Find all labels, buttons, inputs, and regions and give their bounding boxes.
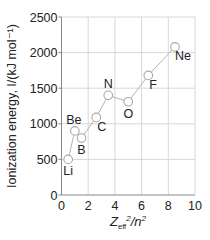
y-tick-label: 0 — [51, 189, 58, 203]
data-point-li — [64, 155, 73, 164]
point-label-c: C — [97, 120, 106, 134]
y-tick-label: 2500 — [30, 11, 58, 25]
x-axis-ticks: 0246810 — [58, 199, 202, 213]
x-tick-label: 10 — [188, 199, 202, 213]
x-axis-label: Zeff2/n2 — [109, 214, 146, 231]
data-point-o — [124, 97, 133, 106]
x-tick-label: 4 — [111, 199, 118, 213]
point-label-n: N — [104, 77, 113, 91]
y-tick-label: 1000 — [30, 117, 58, 131]
point-label-b: B — [77, 143, 85, 157]
x-tick-label: 2 — [85, 199, 92, 213]
point-label-ne: Ne — [175, 49, 191, 63]
y-tick-label: 1500 — [30, 82, 58, 96]
data-point-be — [71, 127, 80, 136]
data-point-b — [77, 134, 86, 143]
point-label-f: F — [149, 78, 157, 92]
point-label-be: Be — [66, 113, 81, 127]
x-tick-label: 8 — [165, 199, 172, 213]
y-axis-label: Ionization energy, I/(kJ mol⁻¹) — [5, 24, 19, 188]
ionization-energy-chart: 05001000150020002500 0246810 LiBeBCNOFNe… — [0, 0, 210, 240]
x-tick-label: 6 — [138, 199, 145, 213]
y-axis-ticks: 05001000150020002500 — [30, 11, 62, 203]
y-tick-label: 500 — [37, 153, 58, 167]
data-point-n — [104, 91, 113, 100]
point-label-o: O — [123, 107, 133, 121]
y-tick-label: 2000 — [30, 46, 58, 60]
point-label-li: Li — [63, 164, 73, 178]
x-tick-label: 0 — [58, 199, 65, 213]
